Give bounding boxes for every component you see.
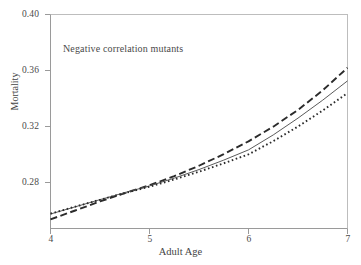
y-tick-label-040: 0.40 (5, 9, 39, 19)
series-line-dotted (51, 93, 348, 214)
y-tick-marks (45, 15, 50, 183)
y-axis-title: Mortality (9, 52, 20, 132)
x-tick-marks (51, 229, 348, 234)
x-tick-label-6: 6 (239, 234, 259, 244)
series-line-solid (51, 81, 348, 214)
chart-plot-area (0, 0, 361, 265)
data-series-layer (51, 68, 348, 220)
plot-annotation-label: Negative correlation mutants (63, 43, 183, 54)
y-tick-label-028: 0.28 (5, 177, 39, 187)
x-tick-label-4: 4 (41, 234, 61, 244)
x-axis-title: Adult Age (0, 246, 361, 257)
mortality-vs-adult-age-chart: 0.40 0.36 0.32 0.28 4 5 6 7 Mortality Ad… (0, 0, 361, 265)
x-tick-label-5: 5 (140, 234, 160, 244)
series-line-dashed (51, 68, 348, 220)
x-tick-label-7: 7 (338, 234, 358, 244)
